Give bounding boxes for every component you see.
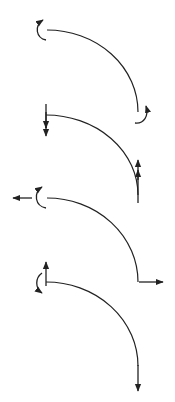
panel-1 [37, 20, 147, 123]
curved-beam [46, 282, 138, 366]
panel-2 [46, 104, 138, 203]
curved-beam-diagram [0, 0, 175, 402]
curved-beam [47, 30, 138, 112]
moment-arrow-icon [37, 273, 42, 293]
moment-arrow-icon [37, 20, 46, 40]
moment-arrow-icon [36, 187, 46, 208]
curved-beam [47, 198, 138, 282]
panel-4 [37, 262, 138, 391]
panel-3 [13, 187, 163, 282]
moment-arrow-icon [135, 106, 147, 123]
curved-beam [46, 115, 138, 195]
